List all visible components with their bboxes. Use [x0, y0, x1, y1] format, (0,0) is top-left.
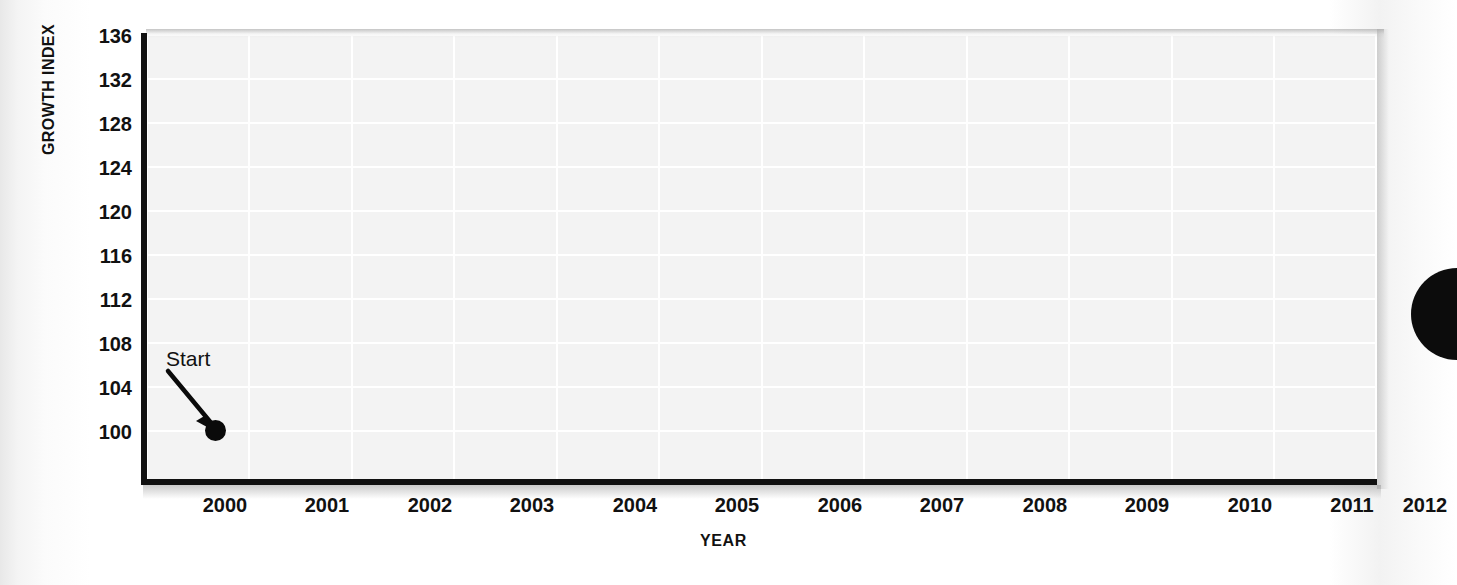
vertical-gridline: [966, 34, 968, 483]
y-tick-label: 108: [72, 334, 132, 354]
y-axis-title: GROWTH INDEX: [40, 24, 58, 155]
vertical-gridline: [1068, 34, 1070, 483]
vertical-gridline: [556, 34, 558, 483]
x-tick-label: 2004: [590, 494, 680, 516]
plot-right-shadow: [1377, 29, 1389, 489]
x-tick-label: 2009: [1102, 494, 1192, 516]
y-tick-label: 128: [72, 114, 132, 134]
y-tick-label: 124: [72, 158, 132, 178]
x-tick-label: 2008: [1000, 494, 1090, 516]
horizontal-gridline: [146, 386, 1377, 388]
horizontal-gridline: [146, 430, 1377, 432]
horizontal-gridline: [146, 34, 1377, 36]
y-tick-label: 132: [72, 70, 132, 90]
y-tick-label: 116: [72, 246, 132, 266]
y-tick-label: 112: [72, 290, 132, 310]
horizontal-gridline: [146, 210, 1377, 212]
x-tick-label: 2006: [795, 494, 885, 516]
x-tick-label: 2007: [897, 494, 987, 516]
y-tick-label: 100: [72, 422, 132, 442]
x-tick-label: 2003: [487, 494, 577, 516]
vertical-gridline: [1375, 34, 1377, 483]
horizontal-gridline: [146, 342, 1377, 344]
x-tick-label: 2001: [282, 494, 372, 516]
horizontal-gridline: [146, 298, 1377, 300]
data-point-marker[interactable]: [205, 420, 226, 441]
horizontal-gridline: [146, 78, 1377, 80]
x-tick-label: 2005: [692, 494, 782, 516]
vertical-gridline: [1171, 34, 1173, 483]
x-tick-label: 2010: [1205, 494, 1295, 516]
horizontal-gridline: [146, 166, 1377, 168]
growth-index-chart-figure: 136 132 128 124 120 116 112 108 104 100 …: [0, 0, 1457, 585]
start-annotation-arrow-icon: [160, 365, 250, 450]
vertical-gridline: [453, 34, 455, 483]
y-axis-line: [141, 33, 147, 485]
horizontal-gridline: [146, 122, 1377, 124]
y-tick-label: 136: [72, 26, 132, 46]
vertical-gridline: [761, 34, 763, 483]
vertical-gridline: [658, 34, 660, 483]
vertical-gridline: [863, 34, 865, 483]
y-tick-label: 104: [72, 378, 132, 398]
plot-area: [146, 34, 1377, 483]
vertical-gridline: [351, 34, 353, 483]
y-tick-label: 120: [72, 202, 132, 222]
x-axis-title: YEAR: [700, 532, 747, 550]
horizontal-gridline: [146, 254, 1377, 256]
x-tick-label: 2012: [1380, 494, 1457, 516]
vertical-gridline: [1273, 34, 1275, 483]
x-tick-label: 2000: [180, 494, 270, 516]
x-tick-label: 2002: [385, 494, 475, 516]
x-axis-line: [141, 479, 1377, 485]
